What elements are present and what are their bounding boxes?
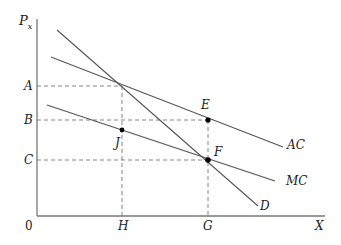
label-f: F — [214, 146, 222, 158]
point-f — [205, 157, 211, 163]
tick-c: C — [24, 154, 33, 166]
cost-curves-diagram: Px A B C 0 H G X D AC MC E F J — [0, 0, 341, 245]
ac-curve — [51, 57, 283, 147]
label-j: J — [115, 137, 120, 149]
tick-g: G — [203, 220, 213, 232]
tick-b: B — [24, 114, 33, 126]
origin-label: 0 — [25, 220, 33, 232]
tick-h: H — [118, 220, 128, 232]
point-e — [205, 117, 210, 122]
label-d: D — [260, 200, 270, 212]
point-j — [120, 128, 125, 133]
mc-curve — [47, 105, 275, 181]
diagram-canvas — [0, 0, 341, 245]
label-e: E — [201, 99, 210, 111]
label-ac: AC — [287, 139, 305, 151]
y-axis-label: Px — [19, 14, 32, 31]
tick-a: A — [24, 80, 33, 92]
label-mc: MC — [286, 175, 307, 187]
x-axis-label: X — [315, 220, 324, 232]
